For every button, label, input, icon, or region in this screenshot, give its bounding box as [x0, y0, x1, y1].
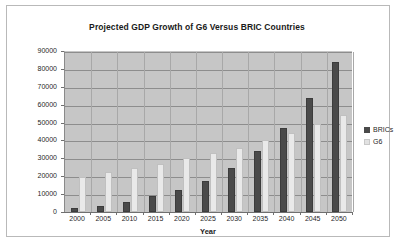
category-separator — [91, 52, 92, 212]
y-axis-tick-label: 10000 — [13, 190, 57, 197]
bar-brics-2035 — [254, 151, 261, 212]
y-axis-tick-label: 90000 — [13, 47, 57, 54]
bar-brics-2010 — [123, 202, 130, 212]
chart-legend: BRICs G6 — [364, 125, 401, 149]
y-axis-tick-mark — [61, 105, 64, 106]
y-axis-tick-mark — [61, 51, 64, 52]
category-separator — [170, 52, 171, 212]
category-separator — [248, 52, 249, 212]
bar-brics-2020 — [175, 190, 182, 212]
bar-g6-2050 — [340, 115, 347, 212]
y-axis-tick-label: 40000 — [13, 136, 57, 143]
y-axis-tick-mark — [61, 140, 64, 141]
legend-swatch-icon-brics — [364, 127, 370, 133]
category-separator — [274, 52, 275, 212]
y-axis-tick-label: 20000 — [13, 172, 57, 179]
y-axis-tick-label: 0 — [13, 208, 57, 215]
y-axis-tick-label: 70000 — [13, 83, 57, 90]
bar-g6-2000 — [79, 177, 86, 212]
y-axis-tick-mark — [61, 176, 64, 177]
y-axis-tick-label: 50000 — [13, 119, 57, 126]
category-separator — [353, 52, 354, 212]
x-axis-title: Year — [64, 227, 352, 236]
plot-area — [64, 51, 352, 212]
category-separator — [144, 52, 145, 212]
y-axis-tick-label: 30000 — [13, 154, 57, 161]
category-separator — [117, 52, 118, 212]
bar-brics-2045 — [306, 98, 313, 212]
chart-title: Projected GDP Growth of G6 Versus BRIC C… — [47, 22, 347, 32]
bar-g6-2010 — [131, 168, 138, 212]
bar-brics-2040 — [280, 128, 287, 212]
bar-g6-2025 — [210, 153, 217, 212]
y-axis-tick-mark — [61, 194, 64, 195]
bar-g6-2020 — [183, 158, 190, 212]
y-axis-tick-label: 60000 — [13, 101, 57, 108]
bar-brics-2025 — [202, 181, 209, 212]
category-separator — [301, 52, 302, 212]
category-separator — [327, 52, 328, 212]
bar-brics-2015 — [149, 196, 156, 212]
chart-page: Projected GDP Growth of G6 Versus BRIC C… — [0, 0, 401, 247]
y-axis-tick-mark — [61, 87, 64, 88]
bar-brics-2030 — [228, 168, 235, 212]
y-axis-tick-mark — [61, 69, 64, 70]
legend-label-g6: G6 — [373, 138, 382, 145]
legend-item-brics: BRICs — [364, 125, 401, 134]
bar-g6-2015 — [157, 164, 164, 212]
y-axis-tick-mark — [61, 158, 64, 159]
bar-series-container — [65, 52, 352, 212]
y-axis-tick-mark — [61, 123, 64, 124]
legend-swatch-icon-g6 — [364, 139, 370, 145]
y-axis-tick-label: 80000 — [13, 65, 57, 72]
bar-g6-2005 — [105, 172, 112, 212]
legend-label-brics: BRICs — [373, 126, 393, 133]
y-axis-tick-mark — [61, 212, 64, 213]
category-separator — [222, 52, 223, 212]
bar-brics-2050 — [332, 62, 339, 212]
bar-g6-2040 — [288, 133, 295, 212]
legend-item-g6: G6 — [364, 137, 401, 146]
category-separator — [196, 52, 197, 212]
bar-g6-2030 — [236, 148, 243, 212]
bar-g6-2035 — [262, 140, 269, 212]
x-axis-tick-label: 2050 — [319, 215, 359, 222]
chart-frame: Projected GDP Growth of G6 Versus BRIC C… — [6, 5, 390, 237]
x-axis-line — [64, 212, 353, 213]
bar-g6-2045 — [314, 124, 321, 212]
